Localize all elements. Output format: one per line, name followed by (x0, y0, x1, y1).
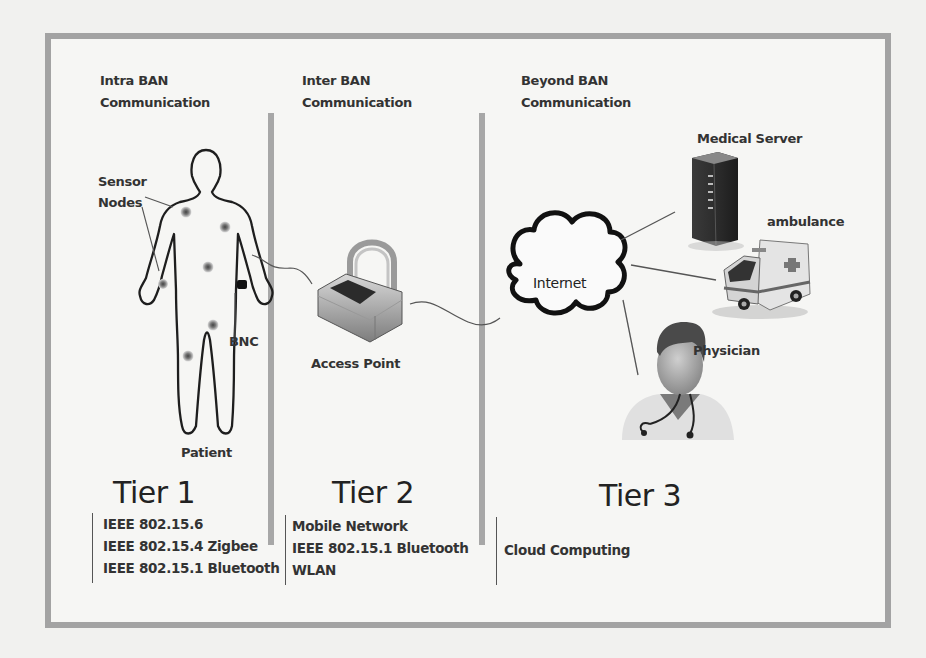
ambulance-label: ambulance (767, 214, 844, 229)
ambulance-icon (712, 240, 810, 319)
sensor-nodes-label: Sensor Nodes (98, 171, 147, 213)
physician-icon (622, 322, 734, 440)
standard-item: IEEE 802.15.1 Bluetooth (292, 537, 469, 559)
medical-server-icon (688, 152, 744, 251)
tier-1-standards: IEEE 802.15.6 IEEE 802.15.4 Zigbee IEEE … (92, 513, 280, 583)
standard-item: Cloud Computing (504, 539, 630, 561)
tier-1-title: Tier 1 (113, 475, 195, 510)
tier-2-title: Tier 2 (332, 475, 414, 510)
standard-item: IEEE 802.15.4 Zigbee (103, 535, 280, 557)
medical-server-label: Medical Server (697, 131, 802, 146)
access-point-label: Access Point (311, 356, 400, 371)
tier-2-standards: Mobile Network IEEE 802.15.1 Bluetooth W… (285, 515, 469, 585)
access-point-icon (318, 243, 402, 343)
patient-body-icon (139, 150, 272, 434)
label-line: Sensor (98, 171, 147, 192)
bnc-label: BNC (229, 334, 258, 349)
tier-3-standards: Cloud Computing (496, 517, 630, 585)
internet-label: Internet (533, 275, 586, 291)
standard-item: IEEE 802.15.1 Bluetooth (103, 557, 280, 579)
standard-item: IEEE 802.15.6 (103, 513, 280, 535)
patient-label: Patient (181, 445, 232, 460)
standard-item: Mobile Network (292, 515, 469, 537)
tier-3-title: Tier 3 (599, 478, 681, 513)
standard-item: WLAN (292, 559, 469, 581)
physician-label: Physician (693, 343, 760, 358)
label-line: Nodes (98, 192, 147, 213)
internet-cloud-icon (509, 213, 625, 313)
